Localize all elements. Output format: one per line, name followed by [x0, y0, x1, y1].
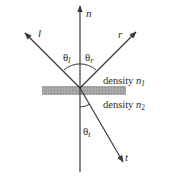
medium-lower-label: density n2 [103, 99, 145, 112]
angle-arc-transmitted [80, 104, 90, 107]
refraction-diagram: n l r t θl θr θt density n1 density n2 [0, 0, 169, 176]
reflected-label: r [118, 28, 123, 40]
interface-surface [42, 86, 126, 95]
angle-incident-label: θl [63, 51, 71, 65]
incident-label: l [38, 27, 41, 39]
angle-reflected-label: θr [85, 51, 94, 65]
diagram-canvas: n l r t θl θr θt density n1 density n2 [0, 0, 169, 176]
incident-ray-l [25, 33, 80, 88]
transmitted-label: t [125, 151, 129, 163]
normal-label: n [86, 7, 92, 19]
angle-transmitted-label: θt [83, 125, 91, 139]
